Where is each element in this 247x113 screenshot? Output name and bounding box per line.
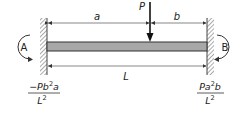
load-P-label: P bbox=[139, 1, 146, 12]
dim-b-label: b bbox=[174, 11, 180, 22]
support-A-label: A bbox=[21, 42, 28, 53]
dim-a-label: a bbox=[94, 11, 100, 22]
formula-right-num-suffix: b bbox=[215, 81, 221, 92]
moment-formula-left: −Pb2a L2 bbox=[28, 80, 60, 106]
dimension-a-b bbox=[48, 21, 206, 25]
svg-text:L2: L2 bbox=[37, 94, 46, 106]
beam bbox=[47, 42, 207, 51]
support-B-label: B bbox=[222, 42, 229, 53]
beam-diagram: a b L P A B −Pb2a L2 Pa2b bbox=[0, 0, 247, 113]
svg-text:L2: L2 bbox=[205, 94, 214, 106]
formula-left-num-suffix: a bbox=[53, 81, 59, 92]
formula-left-num: −Pb bbox=[29, 81, 49, 92]
left-fixed-support bbox=[40, 18, 47, 75]
svg-text:Pa2b: Pa2b bbox=[199, 80, 221, 92]
formula-right-den-exp: 2 bbox=[211, 94, 215, 102]
point-load-arrow bbox=[147, 2, 154, 42]
dim-L-label: L bbox=[123, 71, 129, 82]
svg-text:−Pb2a: −Pb2a bbox=[29, 80, 59, 92]
right-fixed-support bbox=[207, 18, 214, 75]
moment-formula-right: Pa2b L2 bbox=[197, 80, 224, 106]
formula-right-num: Pa bbox=[199, 81, 211, 92]
formula-left-den-exp: 2 bbox=[43, 94, 47, 102]
dimension-L bbox=[48, 64, 206, 68]
